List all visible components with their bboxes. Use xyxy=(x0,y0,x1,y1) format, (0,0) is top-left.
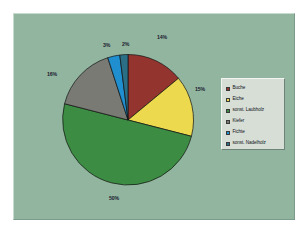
pie-label-fichte: 3% xyxy=(103,43,110,48)
legend-item-label: sonst. Laubholz xyxy=(233,108,264,113)
legend-item-label: Buche xyxy=(233,86,246,91)
pie-label-sonst-laubholz: 50% xyxy=(109,196,119,201)
legend-swatch-icon xyxy=(226,131,230,135)
pie-svg xyxy=(62,54,194,186)
legend-item[interactable]: sonst. Laubholz xyxy=(226,105,281,116)
pie-label-sonst-nadelholz: 2% xyxy=(122,42,129,47)
pie-chart xyxy=(62,54,194,186)
legend-item[interactable]: Eiche xyxy=(226,94,281,105)
legend-item[interactable]: Buche xyxy=(226,83,281,94)
pie-label-eiche: 15% xyxy=(195,87,205,92)
legend-swatch-icon xyxy=(226,87,230,91)
legend-item[interactable]: Fichte xyxy=(226,127,281,138)
legend-swatch-icon xyxy=(226,142,230,146)
legend-item[interactable]: sonst. Nadelholz xyxy=(226,138,281,149)
legend-swatch-icon xyxy=(226,109,230,113)
chart-frame: 14% 15% 50% 16% 3% 2% BucheEichesonst. L… xyxy=(13,13,295,220)
legend-item-label: Eiche xyxy=(233,97,244,102)
legend-swatch-icon xyxy=(226,120,230,124)
legend-item-label: Fichte xyxy=(233,130,245,135)
pie-label-buche: 14% xyxy=(157,35,167,40)
chart-legend: BucheEichesonst. LaubholzKieferFichteson… xyxy=(221,78,285,150)
legend-swatch-icon xyxy=(226,98,230,102)
legend-item-label: Kiefer xyxy=(233,119,245,124)
pie-label-kiefer: 16% xyxy=(47,72,57,77)
legend-item[interactable]: Kiefer xyxy=(226,116,281,127)
legend-item-label: sonst. Nadelholz xyxy=(233,141,266,146)
pie-slices xyxy=(63,55,194,186)
